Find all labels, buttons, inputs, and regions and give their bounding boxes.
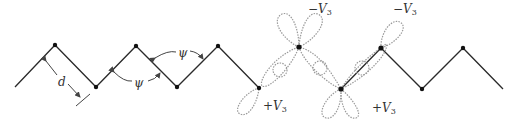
angle-label-2: ψ (178, 47, 187, 59)
angle-label-1: ψ (134, 77, 143, 89)
diagram-canvas (0, 0, 519, 124)
minus-v3-label-2: −V3 (393, 3, 417, 19)
bond-length-label: d (58, 76, 66, 88)
plus-v3-label-2: +V3 (372, 102, 396, 118)
plus-v3-label-1: +V3 (263, 100, 287, 116)
bond-chain (15, 45, 503, 89)
zigzag-chain-diagram: d ψ ψ −V3 +V3 −V3 +V3 (0, 0, 519, 124)
minus-v3-label-1: −V3 (308, 3, 332, 19)
bond-length-dimension (46, 61, 90, 106)
